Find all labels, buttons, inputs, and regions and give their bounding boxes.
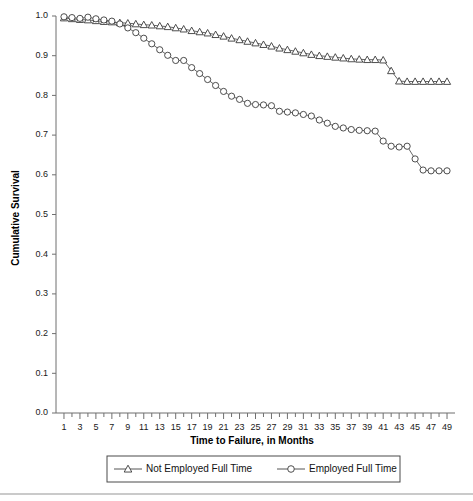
x-axis-tick-label: 17 (187, 422, 197, 432)
x-axis-tick-label: 11 (139, 422, 148, 432)
data-point-marker-circle (292, 110, 298, 116)
data-series-group (60, 14, 450, 174)
data-point-marker-circle (133, 30, 139, 36)
data-point-marker-circle (412, 156, 418, 162)
data-point-marker-circle (165, 52, 171, 58)
y-axis-tick-label: 0.3 (35, 288, 48, 298)
data-point-marker-circle (396, 144, 402, 150)
x-axis-tick-label: 29 (282, 422, 292, 432)
x-axis-tick-label: 23 (235, 422, 245, 432)
y-axis-tick-label: 0.0 (35, 407, 48, 417)
data-point-marker-circle (388, 143, 394, 149)
data-point-marker-circle (244, 100, 250, 106)
y-axis-tick-label: 0.6 (35, 169, 48, 179)
y-axis-tick-label: 1.0 (35, 10, 48, 20)
data-point-marker-circle (189, 65, 195, 71)
x-axis-tick-label: 49 (442, 422, 452, 432)
legend-item-label: Not Employed Full Time (146, 463, 253, 474)
data-point-marker-circle (372, 128, 378, 134)
data-point-marker-circle (205, 76, 211, 82)
data-point-marker-circle (324, 120, 330, 126)
data-point-marker-circle (260, 102, 266, 108)
x-axis-tick-label: 41 (378, 422, 388, 432)
x-axis-tick-label: 33 (314, 422, 324, 432)
x-axis: 1357911131517192123252729313335373941434… (56, 413, 455, 432)
legend-marker-circle (288, 466, 295, 473)
data-point-marker-circle (197, 70, 203, 76)
y-axis-tick-label: 0.9 (35, 50, 48, 60)
x-axis-tick-label: 45 (410, 422, 420, 432)
data-point-marker-circle (364, 128, 370, 134)
survival-chart-figure: 0.00.10.20.30.40.50.60.70.80.91.0 135791… (0, 0, 473, 501)
data-point-marker-circle (380, 138, 386, 144)
data-point-marker-circle (61, 14, 67, 20)
x-axis-tick-label: 35 (330, 422, 340, 432)
data-point-marker-circle (173, 57, 179, 63)
data-point-marker-circle (236, 96, 242, 102)
data-point-marker-circle (228, 93, 234, 99)
data-point-marker-circle (444, 168, 450, 174)
x-axis-tick-label: 37 (346, 422, 356, 432)
data-point-marker-circle (117, 21, 123, 27)
data-point-marker-circle (109, 18, 115, 24)
data-point-marker-circle (181, 57, 187, 63)
x-axis-tick-label: 31 (298, 422, 308, 432)
data-point-marker-circle (284, 109, 290, 115)
legend-item-label: Employed Full Time (309, 463, 397, 474)
data-point-marker-circle (308, 113, 314, 119)
x-axis-tick-label: 21 (219, 422, 229, 432)
x-axis-tick-label: 9 (125, 422, 130, 432)
data-point-marker-circle (300, 111, 306, 117)
data-point-marker-circle (436, 168, 442, 174)
data-point-marker-circle (220, 88, 226, 94)
data-point-marker-circle (428, 168, 434, 174)
x-axis-tick-label: 5 (93, 422, 98, 432)
data-point-marker-circle (332, 123, 338, 129)
x-axis-tick-label: 39 (362, 422, 372, 432)
data-point-marker-circle (77, 15, 83, 21)
y-axis-tick-label: 0.2 (35, 328, 48, 338)
data-point-marker-circle (404, 143, 410, 149)
data-point-marker-circle (101, 17, 107, 23)
x-axis-tick-label: 3 (77, 422, 82, 432)
data-point-marker-circle (93, 16, 99, 22)
x-axis-tick-label: 7 (109, 422, 114, 432)
y-axis-tick-label: 0.7 (35, 129, 48, 139)
data-point-marker-triangle (388, 67, 395, 73)
x-axis-tick-label: 47 (426, 422, 436, 432)
y-axis-title: Cumulative Survival (10, 170, 21, 266)
x-axis-tick-label: 27 (266, 422, 276, 432)
x-axis-tick-label: 19 (203, 422, 213, 432)
x-axis-tick-label: 43 (394, 422, 404, 432)
data-point-marker-circle (268, 103, 274, 109)
data-point-marker-circle (85, 14, 91, 20)
data-point-marker-circle (348, 126, 354, 132)
data-point-marker-circle (213, 82, 219, 88)
data-point-marker-circle (252, 101, 258, 107)
data-point-marker-circle (69, 14, 75, 20)
data-point-marker-circle (420, 167, 426, 173)
data-point-marker-circle (340, 125, 346, 131)
y-axis-tick-label: 0.4 (35, 249, 48, 259)
x-axis-tick-label: 1 (61, 422, 66, 432)
y-axis: 0.00.10.20.30.40.50.60.70.80.91.0 (35, 10, 56, 417)
data-point-marker-circle (316, 117, 322, 123)
kaplan-meier-chart: 0.00.10.20.30.40.50.60.70.80.91.0 135791… (0, 0, 473, 501)
y-axis-tick-label: 0.1 (35, 368, 48, 378)
y-axis-tick-label: 0.8 (35, 90, 48, 100)
data-point-marker-circle (157, 47, 163, 53)
x-axis-tick-label: 25 (250, 422, 260, 432)
x-axis-tick-label: 15 (171, 422, 181, 432)
x-axis-tick-label: 13 (155, 422, 165, 432)
chart-legend: Not Employed Full TimeEmployed Full Time (107, 456, 400, 482)
data-point-marker-circle (149, 41, 155, 47)
x-axis-title: Time to Failure, in Months (190, 435, 314, 446)
series-employed (61, 14, 450, 174)
data-point-marker-circle (276, 108, 282, 114)
data-point-marker-circle (125, 25, 131, 31)
data-point-marker-circle (356, 127, 362, 133)
y-axis-tick-label: 0.5 (35, 209, 48, 219)
data-point-marker-circle (141, 35, 147, 41)
